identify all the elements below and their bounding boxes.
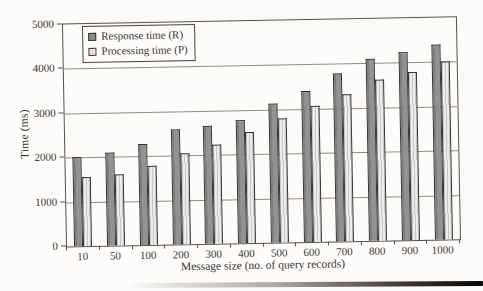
bar-processing-900 xyxy=(408,72,420,240)
bar-processing-500 xyxy=(278,118,289,242)
y-tick-mark-5000 xyxy=(57,23,62,24)
chart-figure: Time (ms) 010002000300040005000 10501002… xyxy=(0,0,483,291)
legend-item-response-time: Response time (R) xyxy=(88,28,187,43)
bar-processing-1000 xyxy=(441,61,453,239)
bar-processing-600 xyxy=(310,106,321,242)
y-tick-mark-2000 xyxy=(59,157,64,158)
legend-item-processing-time: Processing time (P) xyxy=(88,43,187,58)
y-tick-label-1000: 1000 xyxy=(17,195,57,208)
y-tick-mark-4000 xyxy=(58,68,63,69)
bar-processing-100 xyxy=(148,166,158,245)
y-axis-title: Time (ms) xyxy=(17,74,31,194)
scanned-figure-page: Time (ms) 010002000300040005000 10501002… xyxy=(0,0,483,291)
bar-processing-800 xyxy=(375,80,387,241)
response-time-swatch-icon xyxy=(88,32,96,40)
legend-label-response-time: Response time (R) xyxy=(101,28,183,42)
bar-processing-200 xyxy=(180,153,191,244)
processing-time-swatch-icon xyxy=(88,47,96,55)
bar-processing-400 xyxy=(245,132,256,243)
chart-legend: Response time (R) Processing time (P) xyxy=(82,24,196,63)
bar-processing-50 xyxy=(115,174,125,245)
x-tick-label-1000: 1000 xyxy=(421,243,465,256)
x-axis-layer: 10501002003004005006007008009001000 xyxy=(0,0,481,5)
y-tick-mark-3000 xyxy=(59,112,64,113)
bar-processing-300 xyxy=(212,145,223,244)
y-tick-label-4000: 4000 xyxy=(15,62,55,75)
bar-processing-700 xyxy=(342,94,354,241)
y-tick-label-5000: 5000 xyxy=(14,18,54,31)
y-axis-layer: 010002000300040005000 xyxy=(0,0,481,5)
y-tick-label-2000: 2000 xyxy=(16,151,56,164)
y-tick-mark-1000 xyxy=(60,201,65,202)
bar-processing-10 xyxy=(82,177,92,246)
y-tick-label-0: 0 xyxy=(18,240,58,253)
y-tick-label-3000: 3000 xyxy=(15,106,55,119)
legend-label-processing-time: Processing time (P) xyxy=(101,43,187,58)
